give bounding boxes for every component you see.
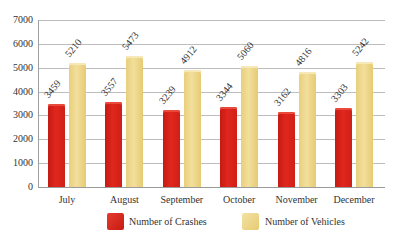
gridline xyxy=(38,44,385,45)
legend-swatch-vehicles xyxy=(242,213,259,230)
y-tick-label: 3000 xyxy=(0,110,33,120)
gridline xyxy=(38,68,385,69)
legend-label: Number of Crashes xyxy=(129,217,207,227)
y-tick-label: 0 xyxy=(0,182,33,192)
y-tick-label: 2000 xyxy=(0,134,33,144)
y-tick-label: 5000 xyxy=(0,63,33,73)
value-label: 3239 xyxy=(157,84,178,106)
crashes-bar xyxy=(335,108,352,187)
value-label: 5473 xyxy=(121,31,142,53)
y-tick-label: 1000 xyxy=(0,158,33,168)
x-axis xyxy=(38,187,385,188)
crashes-bar xyxy=(48,104,65,187)
x-tick-label: October xyxy=(209,194,269,205)
y-tick-label: 7000 xyxy=(0,15,33,25)
y-tick-label: 4000 xyxy=(0,87,33,97)
value-label: 3459 xyxy=(42,79,63,101)
x-tick-label: September xyxy=(152,194,212,205)
gridline xyxy=(38,139,385,140)
x-tick-label: August xyxy=(94,194,154,205)
crashes-bar xyxy=(163,110,180,187)
crashes-bar xyxy=(278,112,295,187)
value-label: 3162 xyxy=(272,86,293,108)
bar-chart: 0100020003000400050006000700034595210Jul… xyxy=(0,0,394,240)
vehicles-bar xyxy=(241,66,258,187)
value-label: 3303 xyxy=(329,82,350,104)
value-label: 4816 xyxy=(293,46,314,68)
vehicles-bar xyxy=(69,63,86,187)
value-label: 5210 xyxy=(63,37,84,59)
value-label: 4912 xyxy=(178,44,199,66)
gridline xyxy=(38,115,385,116)
y-axis xyxy=(38,20,39,187)
y-tick-label: 6000 xyxy=(0,39,33,49)
vehicles-bar xyxy=(299,72,316,187)
legend-swatch-crashes xyxy=(107,213,124,230)
value-label: 5242 xyxy=(350,36,371,58)
legend-label: Number of Vehicles xyxy=(265,217,345,227)
value-label: 3557 xyxy=(100,76,121,98)
vehicles-bar xyxy=(184,70,201,187)
x-tick-label: July xyxy=(37,194,97,205)
x-tick-label: December xyxy=(324,194,384,205)
vehicles-bar xyxy=(126,56,143,187)
gridline xyxy=(38,163,385,164)
crashes-bar xyxy=(105,102,122,187)
vehicles-bar xyxy=(356,62,373,187)
x-tick-label: November xyxy=(267,194,327,205)
crashes-bar xyxy=(220,107,237,187)
gridline xyxy=(38,20,385,21)
